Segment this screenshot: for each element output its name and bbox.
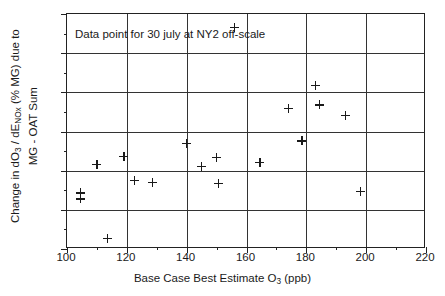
x-axis-minor-tick	[157, 247, 158, 250]
y-axis-title-b-subscript: NOx	[14, 107, 23, 124]
data-point-marker	[255, 158, 264, 167]
annotation-layer: Data point for 30 july at NY2 off-scale	[75, 28, 265, 40]
data-point-marker	[341, 111, 350, 120]
gridline-horizontal	[67, 210, 424, 211]
x-axis-tick-label: 180	[296, 252, 315, 264]
x-axis-minor-tick	[97, 247, 98, 250]
plot-area: -1001020304050	[66, 13, 425, 248]
gridline-vertical	[306, 14, 307, 247]
y-axis-minor-tick	[64, 73, 67, 74]
y-axis-title-c: (% MG) due to	[9, 29, 21, 107]
gridline-vertical	[187, 14, 188, 247]
data-point-marker	[315, 100, 324, 109]
y-axis-title-line2: MG - OAT Sum	[26, 1, 40, 251]
x-axis-tick-label: 100	[56, 252, 75, 264]
y-axis-tick	[61, 210, 67, 211]
data-point-marker	[311, 81, 320, 90]
y-axis-tick	[61, 92, 67, 93]
y-axis-title-line1: Change in dO3 / dENOx (% MG) due to	[9, 29, 21, 223]
y-axis-title-a-subscript: 3	[14, 147, 23, 152]
scatter-plot-figure: -1001020304050 Data point for 30 july at…	[0, 0, 445, 296]
x-axis-tick-label: 140	[176, 252, 195, 264]
data-point-marker	[197, 162, 206, 171]
data-point-marker	[212, 153, 221, 162]
x-axis-tick-label: 120	[116, 252, 135, 264]
chart-annotation-text: Data point for 30 july at NY2 off-scale	[75, 28, 265, 40]
data-point-marker	[182, 139, 191, 148]
y-axis-title-b: / dE	[9, 124, 21, 148]
y-axis-minor-tick	[64, 112, 67, 113]
y-axis-minor-tick	[64, 151, 67, 152]
data-point-marker	[119, 152, 128, 161]
x-axis-title: Base Case Best Estimate O3 (ppb)	[0, 272, 445, 286]
y-axis-title-a: Change in dO	[9, 152, 21, 223]
x-axis-minor-tick	[276, 247, 277, 250]
data-point-marker	[297, 136, 306, 145]
x-axis-title-pre: Base Case Best Estimate O	[134, 272, 277, 284]
y-axis-tick	[61, 132, 67, 133]
data-point-marker	[103, 234, 112, 243]
y-axis-minor-tick	[64, 34, 67, 35]
y-axis-tick	[61, 14, 67, 15]
gridline-horizontal	[67, 53, 424, 54]
data-point-marker	[92, 160, 101, 169]
x-axis-minor-tick	[217, 247, 218, 250]
data-point-marker	[356, 187, 365, 196]
y-axis-minor-tick	[64, 190, 67, 191]
gridline-vertical	[247, 14, 248, 247]
x-axis-tick-label: 200	[356, 252, 375, 264]
y-axis-minor-tick	[64, 229, 67, 230]
gridline-horizontal	[67, 171, 424, 172]
x-axis-tick-label: 160	[236, 252, 255, 264]
data-point-marker	[148, 178, 157, 187]
gridline-horizontal	[67, 132, 424, 133]
y-axis-tick	[61, 171, 67, 172]
gridline-vertical	[127, 14, 128, 247]
y-axis-tick	[61, 53, 67, 54]
x-axis-minor-tick	[396, 247, 397, 250]
gridline-horizontal	[67, 92, 424, 93]
gridline-vertical	[366, 14, 367, 247]
x-axis-title-post: (ppb)	[281, 272, 311, 284]
data-point-marker	[284, 104, 293, 113]
x-axis-tick-label: 220	[415, 252, 434, 264]
data-point-marker	[214, 179, 223, 188]
y-axis-title: Change in dO3 / dENOx (% MG) due to MG -…	[8, 1, 40, 251]
data-point-marker	[130, 176, 139, 185]
x-axis-minor-tick	[336, 247, 337, 250]
data-point-marker	[76, 194, 85, 203]
